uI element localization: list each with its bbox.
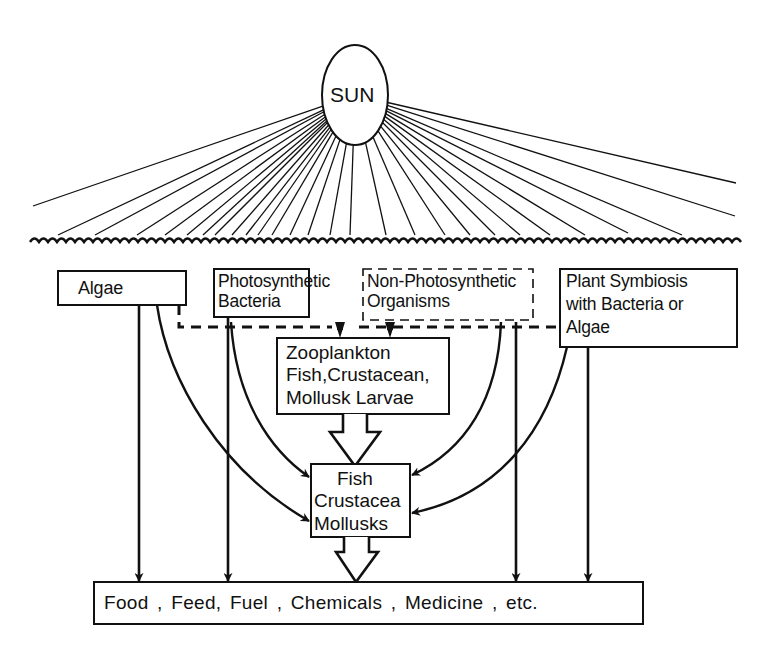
diagram-canvas (0, 0, 764, 657)
sun-ray (350, 145, 353, 235)
sun-ray (246, 127, 330, 235)
sun-ray (386, 114, 585, 235)
fish-label-line3: Mollusks (314, 513, 388, 534)
sun-ray (388, 103, 736, 184)
fish-to-products-arrow (336, 537, 378, 582)
sun-ray (330, 143, 346, 235)
photosynthetic-bacteria-label-line1: Photosynthetic (218, 272, 330, 292)
non-photosynthetic-label-line1: Non-Photosynthetic (367, 272, 516, 292)
sun-rays (33, 103, 736, 236)
fish-label-line2: Crustacea (314, 490, 401, 511)
non-photosynthetic-label-line2: Organisms (367, 292, 450, 312)
zooplankton-label-line1: Zooplankton (286, 342, 391, 363)
sun-ray (373, 137, 415, 235)
sun-ray (378, 131, 445, 235)
sun (210, 45, 277, 145)
sun-ray (383, 123, 496, 236)
algae-label: Algae (78, 278, 123, 298)
dashed-feed-arrowheads (335, 322, 395, 338)
zooplankton-to-fish-arrow (330, 414, 380, 466)
plant-symbiosis-label-line3: Algae (566, 318, 610, 338)
plant-symbiosis-label-line1: Plant Symbiosis (566, 272, 688, 292)
plant-symbiosis-label-line2: with Bacteria or (566, 295, 683, 315)
zooplankton-label-line3: Mollusk Larvae (286, 387, 414, 408)
zooplankton-label-line2: Fish,Crustacean, (286, 364, 430, 385)
photosynthetic-bacteria-label-line2: Bacteria (218, 292, 281, 312)
ocean-surface-wave (30, 239, 741, 243)
sun-ray (187, 119, 326, 235)
sun-ray (366, 142, 387, 235)
sun-ray (386, 111, 628, 233)
sun-ray (137, 115, 325, 236)
fish-label-line1: Fish (337, 468, 373, 489)
sun-label: SUN (330, 83, 374, 107)
products-label: Food , Feed, Fuel , Chemicals , Medicine… (104, 592, 538, 613)
sun-ray (165, 117, 325, 235)
